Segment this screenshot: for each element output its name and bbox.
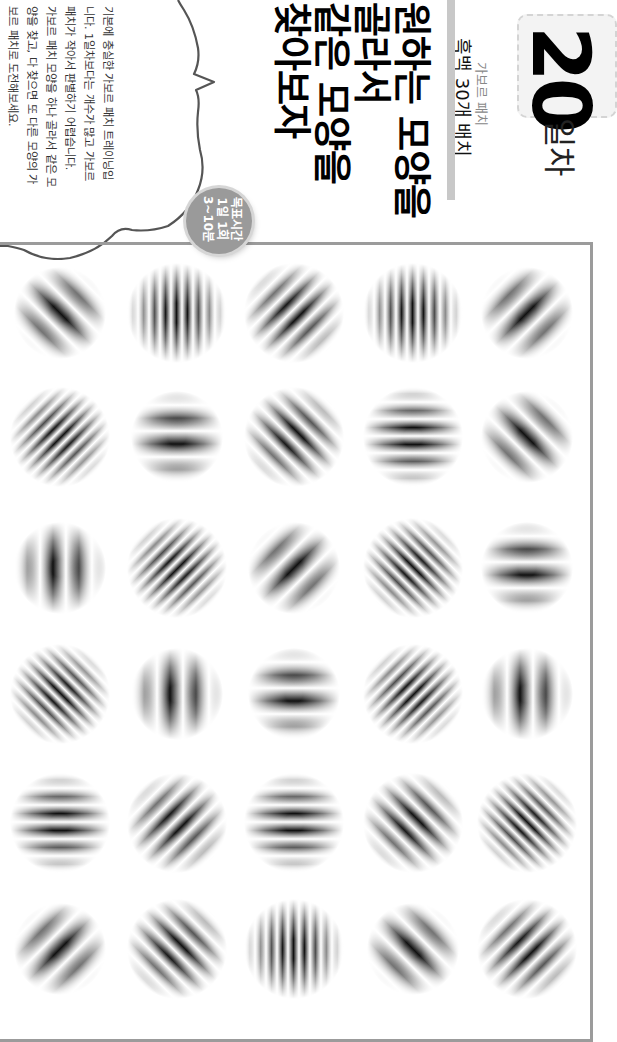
gabor-patch[interactable] [248,648,340,740]
gabor-patch[interactable] [14,267,106,359]
category-label: 가보르 패치 [474,62,488,126]
description-line: 기본에 충실한 가보르 패치 트레이닝입 [98,6,117,187]
gabor-patch[interactable] [131,648,223,740]
goal-line: 1일 1회 [215,196,229,242]
goal-line: 3~10분 [201,196,215,242]
description-line: 패치가 작아서 판별하기 어렵습니다. [60,6,79,187]
gabor-patch[interactable] [363,644,463,744]
title-line: 같은 모양을 [312,2,352,218]
day-suffix: 일차 [543,118,575,176]
description-line: 양을 찾고, 다 찾으면 또 다른 모양의 가 [22,6,41,187]
description-line: 보르 패치로 도전해보세요. [3,6,22,187]
title-line: 골라서 [352,2,392,218]
gabor-patch[interactable] [363,518,463,618]
gabor-patch[interactable] [10,644,110,744]
gabor-patch[interactable] [127,899,227,999]
gabor-patch[interactable] [481,267,573,359]
gabor-patch[interactable] [481,391,573,483]
title-line: 찾아보자 [272,2,312,218]
gabor-patch[interactable] [14,903,106,995]
gabor-patch[interactable] [10,387,110,487]
goal-line: 목표시간 [229,196,243,242]
gabor-patch[interactable] [244,263,344,363]
gabor-patch[interactable] [127,518,227,618]
gabor-patch[interactable] [363,387,463,487]
day-number: 20 [520,26,600,129]
gabor-patch[interactable] [127,773,227,873]
gabor-patch[interactable] [363,773,463,873]
gabor-patch[interactable] [127,263,227,363]
subtitle: 흑백 30개 배치 [452,38,472,157]
gabor-patch[interactable] [244,387,344,487]
description-line: 가보르 패치 모양을 하나 골라서 같은 모 [41,6,60,187]
description: 기본에 충실한 가보르 패치 트레이닝입 니다. 1일차보다는 개수가 많고 가… [3,6,117,187]
gabor-patch[interactable] [14,522,106,614]
page-title: 원하는 모양을 골라서 같은 모양을 찾아보자 [272,2,432,218]
gabor-patch[interactable] [477,773,577,873]
gabor-patch[interactable] [10,773,110,873]
gabor-patch[interactable] [363,263,463,363]
gabor-patch[interactable] [244,773,344,873]
gabor-patch[interactable] [367,903,459,995]
description-line: 니다. 1일차보다는 개수가 많고 가보르 [79,6,98,187]
accent-bar [447,0,455,200]
goal-time-text: 목표시간 1일 1회 3~10분 [201,196,243,242]
gabor-patch[interactable] [481,648,573,740]
title-line: 원하는 모양을 [392,2,432,218]
gabor-patch[interactable] [481,522,573,614]
gabor-patch[interactable] [131,391,223,483]
gabor-patch[interactable] [244,899,344,999]
gabor-patch[interactable] [477,899,577,999]
gabor-patch[interactable] [248,522,340,614]
